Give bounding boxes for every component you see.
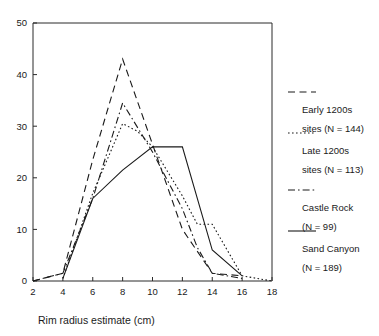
x-tick-label-6: 6 bbox=[90, 286, 95, 297]
x-tick-label-12: 12 bbox=[177, 286, 188, 297]
y-tick-label-50: 50 bbox=[16, 17, 27, 28]
chart-figure: 0102030405024681012141618 Early 1200ssit… bbox=[0, 0, 379, 336]
legend-label-0-line2: sites (N = 144) bbox=[302, 124, 364, 134]
x-tick-label-10: 10 bbox=[147, 286, 158, 297]
legend-label-2-line1: Castle Rock bbox=[302, 203, 353, 213]
x-tick-label-18: 18 bbox=[267, 286, 278, 297]
x-axis-title: Rim radius estimate (cm) bbox=[38, 314, 155, 326]
x-tick-label-2: 2 bbox=[30, 286, 35, 297]
y-tick-label-20: 20 bbox=[16, 172, 27, 183]
y-tick-label-0: 0 bbox=[22, 275, 27, 286]
y-tick-label-40: 40 bbox=[16, 69, 27, 80]
chart-axes: 0102030405024681012141618 bbox=[16, 17, 277, 297]
x-tick-label-16: 16 bbox=[237, 286, 248, 297]
y-tick-label-30: 30 bbox=[16, 121, 27, 132]
legend-label-3-line1: Sand Canyon bbox=[302, 244, 360, 254]
legend-label-2-line2: (N = 99) bbox=[302, 222, 337, 232]
series-line-3 bbox=[63, 147, 242, 279]
x-tick-label-8: 8 bbox=[120, 286, 125, 297]
x-tick-label-4: 4 bbox=[60, 286, 65, 297]
legend-label-1-line2: sites (N = 113) bbox=[302, 165, 363, 175]
y-tick-label-10: 10 bbox=[16, 224, 27, 235]
legend-label-1-line1: Late 1200s bbox=[302, 146, 349, 156]
series-line-2 bbox=[33, 103, 242, 281]
legend-label-3-line2: (N = 189) bbox=[302, 263, 342, 273]
legend-label-0-line1: Early 1200s bbox=[302, 105, 352, 115]
x-tick-label-14: 14 bbox=[207, 286, 218, 297]
chart-series bbox=[33, 59, 272, 281]
series-line-0 bbox=[33, 59, 242, 281]
